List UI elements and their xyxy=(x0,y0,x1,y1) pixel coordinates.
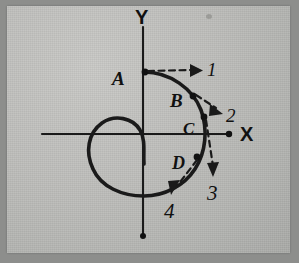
y-axis-bottom-cap xyxy=(140,233,146,239)
vector-3-shaft xyxy=(206,120,213,166)
x-axis-arrowhead xyxy=(226,131,232,137)
point-label-c: C xyxy=(183,119,195,138)
vector-3-group xyxy=(206,120,219,177)
vector-2-arrowhead xyxy=(209,104,223,116)
vector-1-arrowhead xyxy=(190,64,203,77)
y-axis-label: Y xyxy=(135,6,149,28)
point-label-b: B xyxy=(169,90,183,111)
point-markers-group xyxy=(142,69,208,161)
point-label-d: D xyxy=(171,153,185,173)
vector-1-shaft xyxy=(148,70,191,71)
point-label-a: A xyxy=(111,68,125,89)
vector-3-label: 3 xyxy=(206,181,218,205)
vector-1-label: 1 xyxy=(207,59,217,80)
point-marker-b xyxy=(190,93,197,100)
diagram-canvas: Y X A B C D xyxy=(7,6,290,253)
x-axis-label: X xyxy=(240,123,254,145)
vector-1-group xyxy=(148,64,203,77)
vector-2-label: 2 xyxy=(226,105,236,126)
photo-frame: Y X A B C D xyxy=(0,0,299,263)
vector-3-arrowhead xyxy=(207,162,219,177)
point-marker-a xyxy=(142,69,149,76)
paper-sheet: Y X A B C D xyxy=(7,6,290,253)
vector-4-label: 4 xyxy=(164,199,175,223)
